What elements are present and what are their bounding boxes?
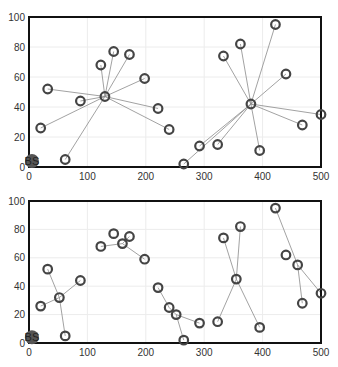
link-line bbox=[218, 104, 251, 145]
link-line bbox=[251, 104, 321, 115]
base-station-label: BS bbox=[25, 155, 40, 167]
y-tick-label: 40 bbox=[14, 281, 26, 292]
y-tick-label: 60 bbox=[14, 72, 26, 83]
x-tick-label: 200 bbox=[137, 347, 154, 358]
sensor-node bbox=[43, 265, 52, 274]
x-tick-label: 400 bbox=[254, 171, 271, 182]
link-line bbox=[105, 79, 145, 97]
link-line bbox=[200, 104, 251, 146]
base-station-label: BS bbox=[25, 331, 40, 343]
link-line bbox=[48, 89, 105, 97]
link-line bbox=[59, 298, 65, 336]
x-tick-label: 100 bbox=[79, 347, 96, 358]
y-tick-label: 20 bbox=[14, 309, 26, 320]
y-tick-label: 20 bbox=[14, 132, 26, 143]
chart-bottom: 0100200300400500020406080100BS bbox=[0, 185, 338, 367]
sensor-node bbox=[109, 229, 118, 238]
link-line bbox=[251, 74, 286, 104]
link-line bbox=[223, 238, 236, 279]
x-tick-label: 300 bbox=[196, 171, 213, 182]
y-tick-label: 100 bbox=[8, 12, 25, 23]
link-line bbox=[105, 55, 130, 97]
x-tick-label: 100 bbox=[79, 171, 96, 182]
chart-bottom-canvas: 0100200300400500020406080100BS bbox=[0, 185, 338, 367]
link-line bbox=[251, 104, 260, 151]
link-line bbox=[236, 227, 240, 280]
sensor-node bbox=[36, 302, 45, 311]
x-tick-label: 500 bbox=[313, 347, 330, 358]
link-line bbox=[184, 104, 251, 164]
chart-top: 0100200300400500020406080100BS bbox=[0, 0, 338, 185]
sensor-node bbox=[213, 317, 222, 326]
link-line bbox=[298, 265, 321, 293]
link-line bbox=[275, 208, 297, 265]
chart-top-canvas: 0100200300400500020406080100BS bbox=[0, 0, 338, 185]
y-tick-label: 60 bbox=[14, 252, 26, 263]
link-line bbox=[218, 279, 237, 322]
plot-frame bbox=[29, 201, 321, 343]
sensor-node bbox=[154, 283, 163, 292]
x-tick-label: 0 bbox=[26, 347, 32, 358]
x-tick-label: 200 bbox=[137, 171, 154, 182]
x-tick-label: 300 bbox=[196, 347, 213, 358]
link-line bbox=[298, 265, 303, 303]
y-tick-label: 40 bbox=[14, 102, 26, 113]
y-tick-label: 80 bbox=[14, 224, 26, 235]
y-tick-label: 100 bbox=[8, 196, 25, 207]
x-tick-label: 500 bbox=[313, 171, 330, 182]
y-tick-label: 80 bbox=[14, 42, 26, 53]
x-tick-label: 400 bbox=[254, 347, 271, 358]
link-line bbox=[251, 25, 276, 105]
x-tick-label: 0 bbox=[26, 171, 32, 182]
